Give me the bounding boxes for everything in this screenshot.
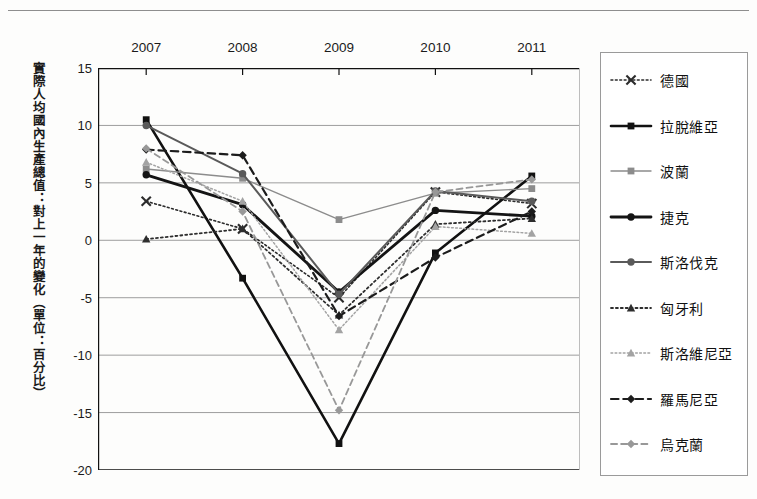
plot-svg <box>98 68 580 470</box>
legend-label: 拉脫維亞 <box>660 116 718 136</box>
diamond-marker-icon <box>609 391 653 407</box>
y-tick-label: -5 <box>58 290 92 305</box>
x-marker-icon <box>609 72 653 88</box>
line-chart: 實際人均國內生產總值：對上一年的變化（單位：百分比） 151050-5-10-1… <box>0 0 757 499</box>
legend-label: 斯洛伐克 <box>660 252 718 272</box>
x-tick-label: 2007 <box>131 40 161 55</box>
y-tick-label: 15 <box>58 61 92 76</box>
data-point <box>627 440 635 448</box>
legend-item-3[interactable]: 捷克 <box>609 204 743 230</box>
data-point <box>336 440 343 447</box>
series-1 <box>143 116 535 447</box>
series-line <box>146 120 532 444</box>
x-tick-label: 2008 <box>228 40 258 55</box>
legend-label: 羅馬尼亞 <box>660 389 718 409</box>
y-tick-label: 0 <box>58 233 92 248</box>
data-point <box>143 122 150 129</box>
data-point <box>628 168 635 175</box>
x-tick-label: 2010 <box>420 40 450 55</box>
legend-item-7[interactable]: 羅馬尼亞 <box>609 386 743 412</box>
data-point <box>143 171 150 178</box>
series-0 <box>142 187 537 302</box>
y-axis-ticks: 151050-5-10-15-20 <box>52 68 92 470</box>
series-line <box>146 218 532 314</box>
legend-item-2[interactable]: 波蘭 <box>609 158 743 184</box>
data-point <box>238 197 246 205</box>
series-8 <box>142 144 536 414</box>
data-point <box>627 213 634 220</box>
triangle-marker-icon <box>609 345 653 361</box>
data-point <box>239 170 246 177</box>
data-point <box>142 158 150 166</box>
series-line <box>146 192 532 298</box>
series-line <box>146 125 532 294</box>
series-line <box>146 162 532 330</box>
y-tick-label: 10 <box>58 118 92 133</box>
triangle-marker-icon <box>609 300 653 316</box>
series-line <box>146 148 532 410</box>
x-tick-label: 2009 <box>324 40 354 55</box>
y-tick-label: 5 <box>58 175 92 190</box>
data-point <box>335 326 343 334</box>
legend-item-8[interactable]: 烏克蘭 <box>609 431 743 457</box>
legend-item-1[interactable]: 拉脫維亞 <box>609 113 743 139</box>
legend-label: 匈牙利 <box>660 298 704 318</box>
circle-marker-icon <box>609 254 653 270</box>
data-point <box>627 258 634 265</box>
legend-item-6[interactable]: 斯洛維尼亞 <box>609 340 743 366</box>
data-point <box>627 394 635 402</box>
legend-label: 德國 <box>660 70 689 90</box>
data-point <box>628 122 635 129</box>
chart-page: 實際人均國內生產總值：對上一年的變化（單位：百分比） 151050-5-10-1… <box>0 0 757 499</box>
legend-item-0[interactable]: 德國 <box>609 67 743 93</box>
x-axis-ticks: 20072008200920102011 <box>98 40 580 60</box>
chart-legend: 德國拉脫維亞波蘭捷克斯洛伐克匈牙利斯洛維尼亞羅馬尼亞烏克蘭 <box>600 52 748 476</box>
legend-item-5[interactable]: 匈牙利 <box>609 295 743 321</box>
y-axis-title: 實際人均國內生產總值：對上一年的變化（單位：百分比） <box>26 62 48 472</box>
y-tick-label: -15 <box>58 405 92 420</box>
data-point <box>335 291 342 298</box>
y-tick-label: -10 <box>58 348 92 363</box>
legend-label: 波蘭 <box>660 161 689 181</box>
data-point <box>528 185 535 192</box>
legend-label: 烏克蘭 <box>660 434 704 454</box>
data-point <box>432 207 439 214</box>
square-marker-icon <box>609 163 653 179</box>
legend-label: 捷克 <box>660 207 689 227</box>
data-point <box>336 216 343 223</box>
data-point <box>528 198 535 205</box>
legend-item-4[interactable]: 斯洛伐克 <box>609 249 743 275</box>
circle-marker-icon <box>609 209 653 225</box>
data-point <box>142 235 150 243</box>
plot-area <box>98 68 580 470</box>
diamond-marker-icon <box>609 436 653 452</box>
data-point <box>142 197 151 206</box>
y-tick-label: -20 <box>58 463 92 478</box>
square-marker-icon <box>609 118 653 134</box>
legend-label: 斯洛維尼亞 <box>660 343 733 363</box>
data-point <box>335 406 343 414</box>
x-tick-label: 2011 <box>517 40 546 55</box>
data-point <box>239 275 246 282</box>
